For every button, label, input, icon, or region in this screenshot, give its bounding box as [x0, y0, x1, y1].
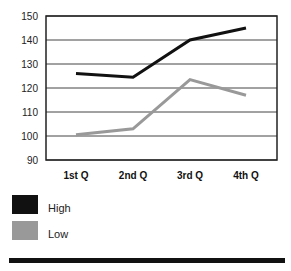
series-line-high: [76, 28, 246, 77]
x-tick-label: 2nd Q: [119, 170, 148, 181]
gridlines: [46, 16, 277, 160]
series-lines: [76, 28, 246, 135]
legend-item-high: High: [12, 195, 71, 214]
legend-item-low: Low: [12, 221, 68, 240]
y-tick-label: 150: [21, 11, 38, 22]
x-axis-ticks: 1st Q2nd Q3rd Q4th Q: [63, 170, 259, 181]
legend-label-high: High: [48, 196, 71, 214]
y-tick-label: 120: [21, 83, 38, 94]
legend-swatch-high: [12, 195, 38, 214]
y-tick-label: 140: [21, 35, 38, 46]
y-tick-label: 90: [27, 155, 39, 166]
x-tick-label: 1st Q: [63, 170, 88, 181]
y-tick-label: 110: [22, 107, 38, 118]
line-chart: 90100110120130140150 1st Q2nd Q3rd Q4th …: [0, 0, 291, 190]
bottom-divider: [9, 258, 285, 263]
y-tick-label: 100: [21, 131, 38, 142]
y-axis-ticks: 90100110120130140150: [21, 11, 38, 166]
x-tick-label: 3rd Q: [177, 170, 203, 181]
y-tick-label: 130: [21, 59, 38, 70]
legend-swatch-low: [12, 221, 38, 240]
legend-label-low: Low: [48, 222, 68, 240]
x-tick-label: 4th Q: [233, 170, 259, 181]
